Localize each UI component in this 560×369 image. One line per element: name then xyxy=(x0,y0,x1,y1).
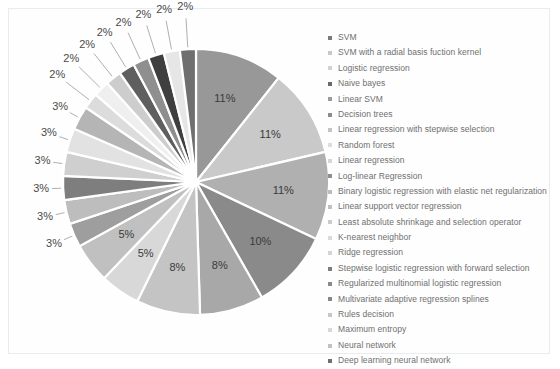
leader-line xyxy=(66,82,89,100)
pie-slice-value-label: 8% xyxy=(212,259,228,271)
pie-chart-area: 11%11%11%10%8%8%5%5%3%3%3%3%3%3%2%2%2%2%… xyxy=(0,0,330,364)
chart-legend: SVMSVM with a radial basis fuction kerne… xyxy=(326,30,556,369)
pie-slice-value-label: 2% xyxy=(135,8,151,20)
pie-slice-value-label: 8% xyxy=(169,261,185,273)
pie-slice-value-label: 2% xyxy=(177,0,193,12)
leader-line xyxy=(110,42,125,67)
pie-slice-value-label: 5% xyxy=(118,228,134,240)
pie-slice-value-label: 11% xyxy=(214,92,235,104)
pie-slice-value-label: 2% xyxy=(156,3,172,15)
legend-item-label: Stepwise logistic regression with forwar… xyxy=(338,261,530,276)
legend-marker-swatch xyxy=(328,128,332,132)
legend-marker-swatch xyxy=(328,328,332,332)
pie-slice-value-label: 2% xyxy=(116,16,132,28)
legend-marker-swatch xyxy=(328,97,332,101)
pie-slice-value-label: 3% xyxy=(33,182,49,194)
legend-item-label: Decision trees xyxy=(338,107,393,122)
pie-slice-value-label: 3% xyxy=(41,126,57,138)
leader-line xyxy=(147,26,156,54)
legend-item[interactable]: Decision trees xyxy=(326,107,556,122)
legend-item[interactable]: Logistic regression xyxy=(326,61,556,76)
pie-slices xyxy=(63,49,329,315)
pie-slice-value-label: 2% xyxy=(49,68,65,80)
legend-item[interactable]: Linear regression xyxy=(326,153,556,168)
pie-slice-value-label: 3% xyxy=(35,154,51,166)
pie-slice-value-label: 2% xyxy=(63,52,79,64)
pie-slice-value-label: 3% xyxy=(46,237,62,249)
legend-item[interactable]: Regularized multinomial logistic regress… xyxy=(326,276,556,291)
legend-marker-swatch xyxy=(328,51,332,55)
leader-line xyxy=(53,162,62,163)
legend-item-label: Linear regression with stepwise selectio… xyxy=(338,122,495,137)
pie-slice-value-label: 5% xyxy=(138,247,154,259)
legend-item-label: SVM with a radial basis fuction kernel xyxy=(338,45,481,60)
leader-line xyxy=(56,213,65,215)
legend-marker-swatch xyxy=(328,220,332,224)
legend-item-label: Neural network xyxy=(338,338,396,353)
legend-item-label: Maximum entropy xyxy=(338,322,406,337)
leader-line xyxy=(64,236,72,240)
leader-line xyxy=(70,113,78,117)
legend-item-label: Least absolute shrinkage and selection o… xyxy=(338,215,521,230)
legend-item[interactable]: Log-linear Regression xyxy=(326,169,556,184)
legend-marker-swatch xyxy=(328,36,332,40)
legend-marker-swatch xyxy=(328,236,332,240)
leader-line xyxy=(128,33,140,59)
pie-slice-value-label: 2% xyxy=(97,26,113,38)
legend-marker-swatch xyxy=(328,82,332,86)
pie-slice-value-label: 3% xyxy=(37,210,53,222)
leader-line xyxy=(79,67,100,87)
legend-marker-swatch xyxy=(328,344,332,348)
legend-item-label: Ridge regression xyxy=(338,245,403,260)
legend-item-label: Linear support vector regression xyxy=(338,199,462,214)
legend-item-label: K-nearest neighbor xyxy=(338,230,411,245)
legend-item[interactable]: Least absolute shrinkage and selection o… xyxy=(326,215,556,230)
legend-item[interactable]: Maximum entropy xyxy=(326,322,556,337)
legend-marker-swatch xyxy=(328,113,332,117)
leader-line xyxy=(166,21,171,50)
legend-item-label: Binary logistic regression with elastic … xyxy=(338,184,547,199)
legend-item-label: Random forest xyxy=(338,138,394,153)
pie-slice-value-label: 11% xyxy=(260,128,281,140)
legend-item[interactable]: Naive bayes xyxy=(326,76,556,91)
legend-marker-swatch xyxy=(328,359,332,363)
legend-marker-swatch xyxy=(328,282,332,286)
leader-line xyxy=(59,137,68,140)
leader-line xyxy=(94,54,112,77)
pie-slice-value-label: 10% xyxy=(249,235,271,247)
legend-item-label: Log-linear Regression xyxy=(338,169,422,184)
legend-item[interactable]: Linear SVM xyxy=(326,92,556,107)
legend-item[interactable]: Deep learning neural network xyxy=(326,353,556,368)
legend-marker-swatch xyxy=(328,190,332,194)
legend-item-label: Regularized multinomial logistic regress… xyxy=(338,276,501,291)
legend-item[interactable]: Linear regression with stepwise selectio… xyxy=(326,122,556,137)
legend-item-label: Rules decision xyxy=(338,307,394,322)
legend-item[interactable]: Ridge regression xyxy=(326,245,556,260)
legend-marker-swatch xyxy=(328,313,332,317)
legend-marker-swatch xyxy=(328,143,332,147)
pie-slice-value-label: 2% xyxy=(79,38,95,50)
legend-marker-swatch xyxy=(328,251,332,255)
legend-marker-swatch xyxy=(328,66,332,70)
legend-item[interactable]: Rules decision xyxy=(326,307,556,322)
legend-marker-swatch xyxy=(328,205,332,209)
legend-item[interactable]: Binary logistic regression with elastic … xyxy=(326,184,556,199)
legend-item[interactable]: Multivariate adaptive regression splines xyxy=(326,292,556,307)
legend-item-label: Linear SVM xyxy=(338,92,383,107)
legend-item[interactable]: Random forest xyxy=(326,138,556,153)
pie-slice-value-label: 3% xyxy=(52,100,68,112)
legend-item-label: Naive bayes xyxy=(338,76,385,91)
legend-item-label: Linear regression xyxy=(338,153,405,168)
legend-marker-swatch xyxy=(328,159,332,163)
legend-item[interactable]: SVM with a radial basis fuction kernel xyxy=(326,45,556,60)
pie-slice-value-label: 11% xyxy=(273,184,294,196)
legend-item[interactable]: Neural network xyxy=(326,338,556,353)
legend-item[interactable]: Stepwise logistic regression with forwar… xyxy=(326,261,556,276)
legend-item[interactable]: SVM xyxy=(326,30,556,45)
legend-item-label: SVM xyxy=(338,30,357,45)
legend-marker-swatch xyxy=(328,297,332,301)
legend-item-label: Deep learning neural network xyxy=(338,353,450,368)
legend-marker-swatch xyxy=(328,267,332,271)
legend-item[interactable]: K-nearest neighbor xyxy=(326,230,556,245)
legend-item[interactable]: Linear support vector regression xyxy=(326,199,556,214)
